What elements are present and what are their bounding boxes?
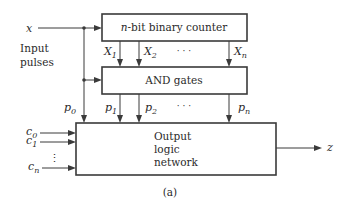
arrow-to-and: [94, 77, 102, 83]
p0-label: p0: [64, 101, 76, 116]
x2-arrow: [136, 59, 142, 67]
p2-label: p2: [145, 101, 157, 116]
pn-arrow: [226, 115, 232, 123]
p1-arrow: [117, 115, 123, 123]
output-network-label-1: Output: [154, 130, 192, 142]
input-pulses-label-1: Input: [20, 42, 49, 54]
cn-arrow: [68, 165, 76, 171]
input-pulses-label-2: pulses: [20, 56, 54, 68]
x2-label: X2: [143, 45, 157, 60]
x1-label: X1: [103, 45, 117, 60]
output-network-label-2: logic: [154, 143, 180, 155]
x1-arrow: [117, 59, 123, 67]
output-network-label-3: network: [154, 156, 199, 168]
cn-label: cn: [28, 160, 39, 175]
counter-label: n-bit binary counter: [121, 21, 229, 33]
arrow-to-counter: [94, 25, 102, 31]
input-x-label: x: [26, 22, 33, 35]
counter-ellipsis: · · ·: [177, 46, 191, 56]
output-z-label: z: [326, 141, 333, 154]
c1-arrow: [68, 139, 76, 145]
block-diagram: x Input pulses n-bit binary counter X1 X…: [0, 0, 347, 207]
output-z-arrow: [314, 145, 322, 151]
and-gates-label: AND gates: [144, 74, 202, 86]
xn-arrow: [226, 59, 232, 67]
p2-arrow: [136, 115, 142, 123]
control-ellipsis: ⋮: [49, 152, 60, 165]
p1-label: p1: [105, 101, 117, 116]
figure-caption: (a): [163, 186, 177, 198]
gate-ellipsis: · · ·: [177, 101, 191, 111]
arrow-p0: [81, 115, 87, 123]
c0-arrow: [68, 130, 76, 136]
pn-label: pn: [238, 101, 250, 116]
xn-label: Xn: [233, 45, 247, 60]
